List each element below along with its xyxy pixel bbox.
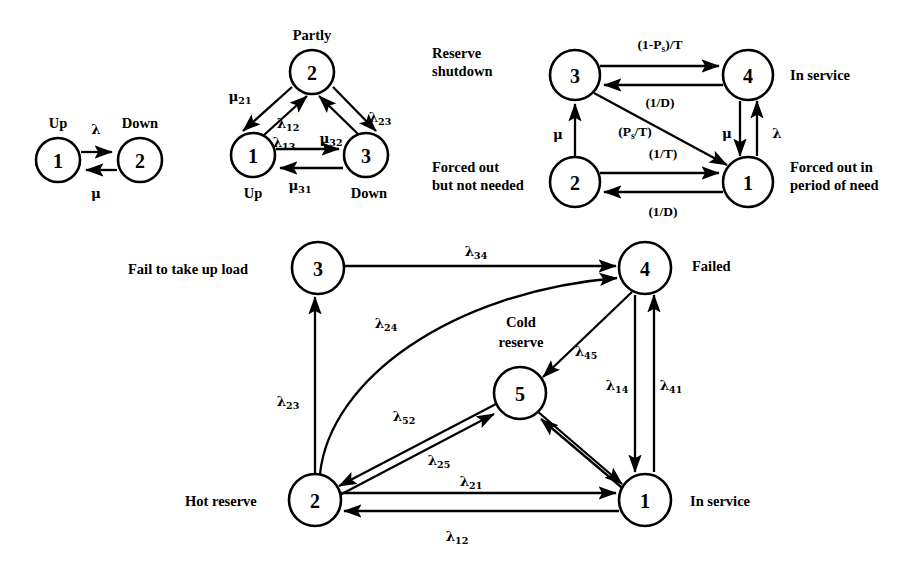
state-name-in-service: In service (790, 67, 851, 83)
state-name-hot-reserve: Hot reserve (185, 493, 257, 509)
diagram-three-state-model: 2 1 3 Partly Up Down μ21 λ12 λ23 μ32 (228, 27, 391, 201)
diagram-four-state-reserve-model: 3 4 2 1 Reserve shutdown In service Forc… (432, 37, 879, 219)
rate-label-lambda-right: λ (772, 125, 781, 141)
rate-label-1-over-d-bottom: (1/D) (648, 204, 677, 219)
rate-label-1-over-t: (1/T) (649, 146, 678, 161)
diagram-two-state-model: 1 2 Up Down λ μ (36, 115, 162, 201)
rate-label-lambda14: λ14 (606, 377, 629, 395)
edge-1-to-5 (541, 419, 627, 492)
state-name-down: Down (122, 115, 158, 131)
rate-label-lambda21: λ21 (460, 473, 483, 491)
node-label-d2n3: 3 (361, 145, 371, 167)
rate-label-lambda12: λ12 (446, 528, 469, 546)
rate-label-ps-over-t: (Ps/T) (618, 124, 652, 141)
state-name-forced-out-need-line1: Forced out in (790, 159, 873, 175)
state-name-reserve-shutdown-line2: shutdown (432, 63, 492, 79)
rate-label-mu32: μ32 (319, 130, 342, 148)
node-label-d1n1: 1 (53, 150, 63, 172)
state-name-in-service: In service (690, 493, 751, 509)
rate-label-lambda24: λ24 (375, 315, 398, 333)
state-name-partly: Partly (293, 27, 332, 43)
rate-label-lambda41: λ41 (660, 377, 683, 395)
rate-label-lambda34: λ34 (465, 243, 488, 261)
edge-5-to-1 (537, 411, 622, 484)
node-label-d1n2: 2 (135, 150, 145, 172)
rate-label-mu-left: μ (553, 126, 563, 142)
node-label-d4n1: 1 (640, 490, 650, 512)
state-name-reserve-shutdown-line1: Reserve (432, 45, 482, 61)
node-label-d3n3: 3 (570, 65, 580, 87)
rate-label-1-over-d-top: (1/D) (645, 95, 674, 110)
rate-label-lambda12: λ12 (277, 115, 300, 133)
node-label-d4n5: 5 (515, 383, 525, 405)
rate-label-lambda25: λ25 (428, 452, 451, 470)
rate-label-mu: μ (91, 185, 101, 201)
node-label-d4n3: 3 (313, 258, 323, 280)
state-name-down: Down (351, 185, 387, 201)
rate-label-mu-right: μ (722, 125, 732, 141)
state-name-forced-out-not-needed-line2: but not needed (432, 177, 524, 193)
state-name-up: Up (244, 185, 263, 201)
node-label-d3n4: 4 (743, 65, 753, 87)
state-name-cold-reserve-line1: Cold (506, 314, 536, 330)
diagram-five-state-model: 3 4 5 2 1 Fail to take up load Failed Co… (128, 242, 751, 546)
node-label-d2n2: 2 (307, 62, 317, 84)
rate-label-lambda: λ (91, 121, 100, 137)
rate-label-lambda23: λ23 (369, 109, 392, 127)
node-label-d3n2: 2 (570, 172, 580, 194)
edge-5-to-2 (339, 404, 496, 486)
state-name-fail-take-up-load: Fail to take up load (128, 261, 248, 277)
state-name-up: Up (49, 115, 68, 131)
state-transition-diagrams: 1 2 Up Down λ μ 2 (0, 0, 919, 571)
edge-4-to-5 (543, 292, 632, 377)
state-name-forced-out-need-line2: period of need (790, 177, 879, 193)
rate-label-1-ps-over-t: (1-Ps)/T (638, 37, 683, 54)
rate-label-lambda45: λ45 (575, 343, 598, 361)
node-label-d4n4: 4 (640, 258, 650, 280)
rate-label-lambda52: λ52 (393, 408, 416, 426)
node-label-d2n1: 1 (248, 145, 258, 167)
rate-label-mu21: μ21 (228, 88, 251, 106)
edge-3-to-2 (319, 96, 358, 134)
rate-label-mu31: μ31 (288, 177, 311, 195)
rate-label-lambda23: λ23 (277, 393, 300, 411)
rate-label-lambda13: λ13 (273, 134, 296, 152)
state-name-failed: Failed (692, 258, 731, 274)
node-label-d4n2: 2 (310, 490, 320, 512)
state-name-cold-reserve-line2: reserve (499, 334, 544, 350)
figure-canvas: 1 2 Up Down λ μ 2 (0, 0, 919, 571)
state-name-forced-out-not-needed-line1: Forced out (432, 159, 499, 175)
node-label-d3n1: 1 (743, 172, 753, 194)
